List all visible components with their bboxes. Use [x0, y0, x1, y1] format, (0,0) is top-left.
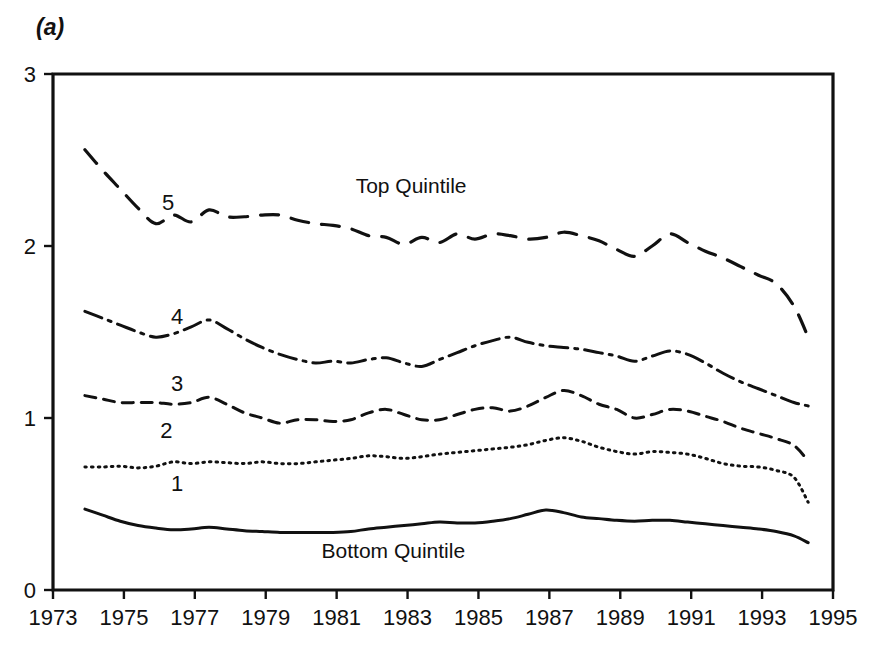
- series-number-5: 5: [162, 190, 174, 215]
- x-tick-label: 1983: [383, 605, 432, 630]
- series-line-1: [85, 509, 808, 543]
- x-tick-label: 1981: [312, 605, 361, 630]
- x-tick-label: 1995: [809, 605, 858, 630]
- x-tick-label: 1975: [99, 605, 148, 630]
- series-number-2: 2: [160, 418, 172, 443]
- series-number-3: 3: [171, 371, 183, 396]
- x-tick-label: 1991: [667, 605, 716, 630]
- x-tick-label: 1977: [170, 605, 219, 630]
- line-chart: 1973197519771979198119831985198719891991…: [0, 0, 887, 667]
- chart-axes: [53, 74, 833, 590]
- series-line-3: [85, 390, 808, 461]
- series-line-2: [85, 438, 808, 503]
- x-tick-label: 1987: [525, 605, 574, 630]
- y-tick-label: 0: [24, 578, 36, 603]
- series-number-4: 4: [171, 304, 183, 329]
- x-tick-label: 1985: [454, 605, 503, 630]
- y-tick-label: 3: [24, 62, 36, 87]
- annotation-top-quintile: Top Quintile: [356, 174, 467, 197]
- figure-panel: (a) 197319751977197919811983198519871989…: [0, 0, 887, 667]
- series-number-1: 1: [171, 471, 183, 496]
- y-tick-label: 2: [24, 234, 36, 259]
- x-tick-label: 1973: [29, 605, 78, 630]
- x-tick-label: 1993: [738, 605, 787, 630]
- chart-series: [85, 150, 808, 543]
- y-tick-label: 1: [24, 406, 36, 431]
- series-line-4: [85, 311, 808, 406]
- x-tick-label: 1989: [596, 605, 645, 630]
- x-tick-label: 1979: [241, 605, 290, 630]
- panel-label: (a): [36, 14, 64, 41]
- annotation-bottom-quintile: Bottom Quintile: [322, 539, 466, 562]
